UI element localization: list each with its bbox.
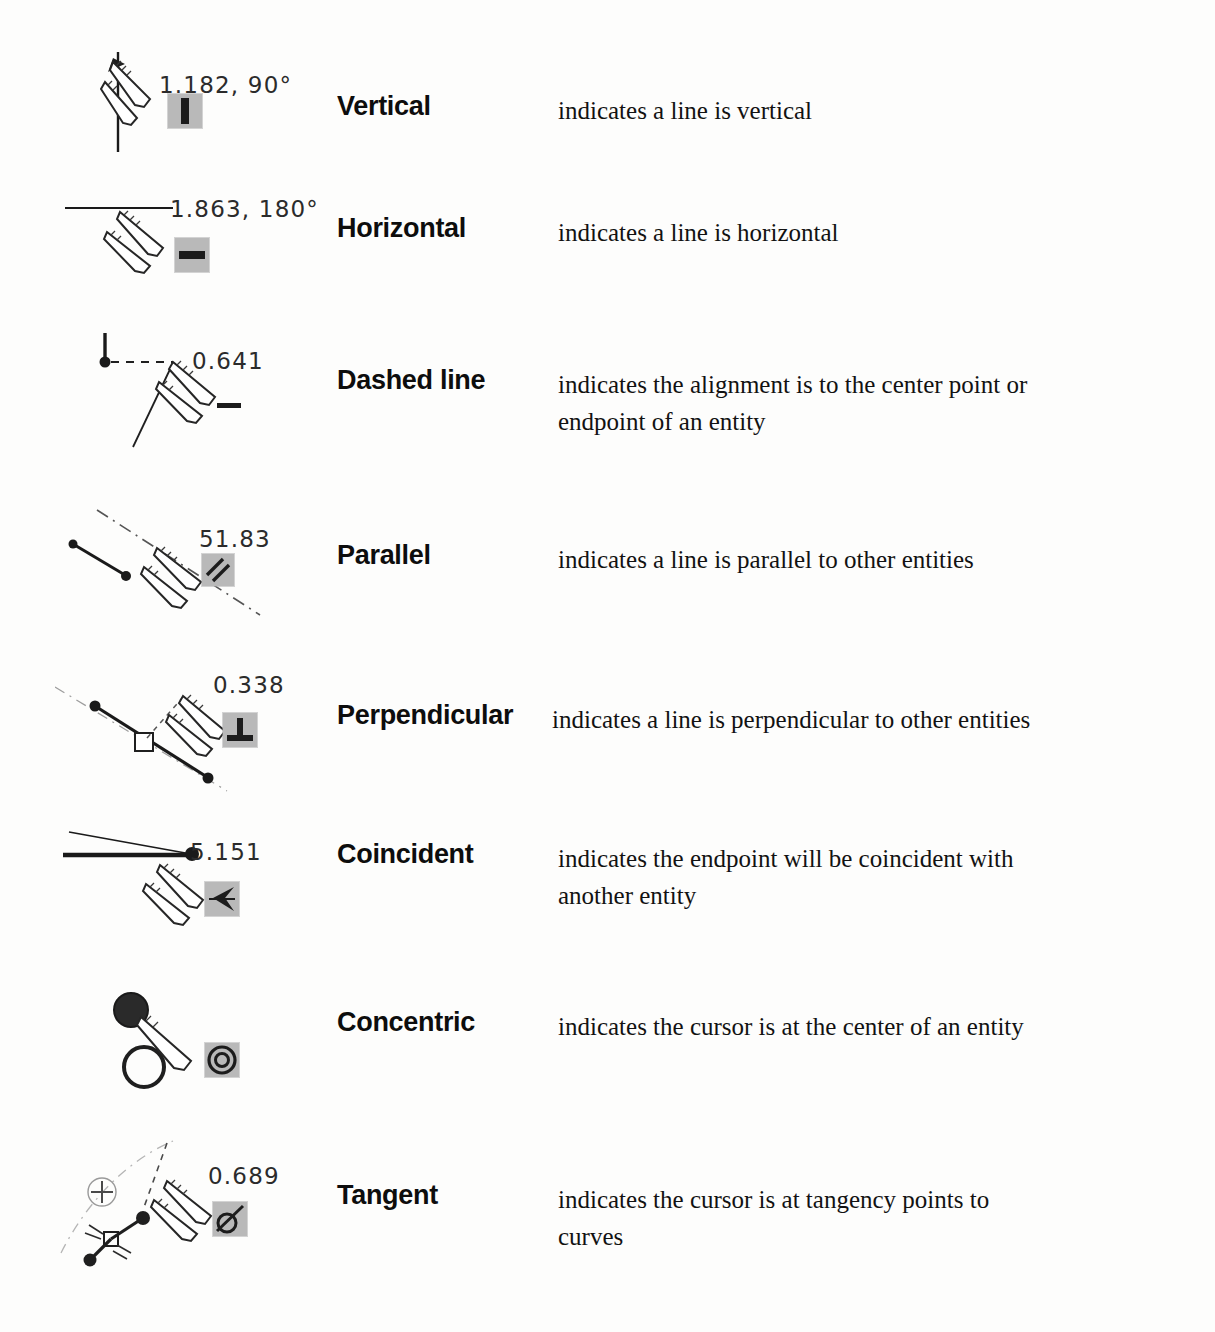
dimension-readout: 0.338: [213, 672, 285, 698]
horizontal-bar-icon: [175, 238, 209, 272]
description-line: another entity: [558, 877, 1198, 914]
description-text: indicates the cursor is at the center of…: [558, 1008, 1198, 1045]
term-label: Horizontal: [337, 213, 552, 244]
table-row: 0.689 Tangent indicates the cursor is at…: [0, 1135, 1215, 1280]
term-label: Parallel: [337, 540, 552, 571]
description-text: indicates a line is perpendicular to oth…: [552, 701, 1192, 738]
dimension-readout: 51.83: [199, 526, 271, 552]
vertical-bar-icon: [168, 94, 202, 128]
description-text: indicates the endpoint will be coinciden…: [558, 840, 1198, 914]
concentric-figure-svg: [55, 985, 325, 1100]
tangent-icon: [213, 1202, 247, 1236]
concentric-circles-icon: [205, 1043, 239, 1077]
table-row: 0.338 Perpendicular indicates a line is …: [0, 655, 1215, 795]
term-label: Coincident: [337, 839, 552, 870]
coincident-icon: [205, 882, 239, 916]
term-label: Perpendicular: [337, 700, 587, 731]
description-text: indicates the alignment is to the center…: [558, 366, 1198, 440]
description-line: indicates a line is parallel to other en…: [558, 541, 1198, 578]
description-text: indicates a line is vertical: [558, 92, 1198, 129]
dimension-readout: 0.689: [208, 1163, 280, 1189]
figure-concentric: [55, 985, 325, 1100]
table-row: 51.83 Parallel indicates a line is paral…: [0, 500, 1215, 620]
dimension-readout: 1.182, 90°: [159, 72, 292, 98]
table-row: 0.641 Dashed line indicates the alignmen…: [0, 325, 1215, 465]
description-line: indicates a line is vertical: [558, 92, 1198, 129]
table-row: Concentric indicates the cursor is at th…: [0, 985, 1215, 1100]
figure-tangent: [55, 1135, 325, 1280]
description-line: indicates a line is horizontal: [558, 214, 1198, 251]
perpendicular-icon: [223, 713, 257, 747]
table-row: 1.182, 90° Vertical indicates a line is …: [0, 34, 1215, 164]
description-line: indicates the alignment is to the center…: [558, 366, 1198, 403]
description-line: indicates a line is perpendicular to oth…: [552, 701, 1192, 738]
figure-vertical: [55, 34, 325, 164]
description-line: indicates the cursor is at the center of…: [558, 1008, 1198, 1045]
table-row: 5.151 Coincident indicates the endpoint …: [0, 822, 1215, 942]
dimension-readout: 0.641: [192, 348, 264, 374]
dimension-readout: 1.863, 180°: [170, 196, 319, 222]
term-label: Tangent: [337, 1180, 552, 1211]
description-line: curves: [558, 1218, 1198, 1255]
term-label: Vertical: [337, 91, 552, 122]
description-text: indicates a line is parallel to other en…: [558, 541, 1198, 578]
figure-parallel: [55, 500, 325, 620]
description-line: indicates the cursor is at tangency poin…: [558, 1181, 1198, 1218]
parallel-lines-icon: [202, 554, 234, 586]
description-line: endpoint of an entity: [558, 403, 1198, 440]
description-text: indicates a line is horizontal: [558, 214, 1198, 251]
figure-dashed-line: [55, 325, 325, 465]
term-label: Concentric: [337, 1007, 552, 1038]
description-text: indicates the cursor is at tangency poin…: [558, 1181, 1198, 1255]
dashed-line-figure-svg: [55, 325, 325, 465]
dimension-readout: 5.151: [190, 839, 262, 865]
term-label: Dashed line: [337, 365, 552, 396]
table-row: 1.863, 180° Horizontal indicates a line …: [0, 186, 1215, 296]
tangent-figure-svg: [55, 1135, 325, 1280]
description-line: indicates the endpoint will be coinciden…: [558, 840, 1198, 877]
parallel-figure-svg: [55, 500, 325, 620]
